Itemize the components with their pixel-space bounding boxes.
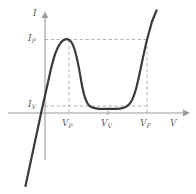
tick-label-forward-voltage-sub: F [147,122,151,129]
tick-label-peak-voltage: VP [62,119,73,128]
tick-label-forward-voltage-base: V [140,118,147,128]
chart-canvas [0,0,196,194]
y-axis-label-text: I [33,8,37,18]
tunnel-diode-iv-chart: I V IP IV VP VV VF [0,0,196,194]
tick-label-peak-voltage-sub: P [69,122,73,129]
tick-label-valley-voltage: VV [101,119,112,128]
tick-label-valley-voltage-base: V [101,118,108,128]
tick-label-valley-current: IV [28,100,36,109]
tick-label-valley-voltage-sub: V [108,122,112,129]
x-axis-arrowhead [183,110,190,117]
guide-lines [45,40,148,114]
tick-label-forward-voltage: VF [140,119,151,128]
tick-label-valley-current-sub: V [32,103,36,110]
tick-label-peak-current: IP [28,34,36,43]
x-axis-label-text: V [170,118,177,128]
x-axis-label: V [170,119,177,128]
tick-label-peak-current-sub: P [32,37,36,44]
tick-label-peak-voltage-base: V [62,118,69,128]
y-axis-arrowhead [42,12,49,19]
y-axis-label: I [33,9,37,18]
